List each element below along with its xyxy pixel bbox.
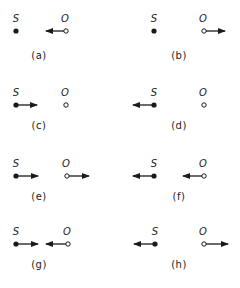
panel-caption-f: (f) bbox=[173, 192, 186, 202]
diagram-canvas bbox=[0, 0, 240, 288]
observer-circle-icon bbox=[202, 242, 206, 246]
source-label: S bbox=[151, 14, 157, 24]
panel-e bbox=[13, 173, 89, 178]
observer-label: O bbox=[61, 88, 69, 98]
panel-caption-a: (a) bbox=[31, 51, 46, 61]
panel-caption-b: (b) bbox=[171, 51, 187, 61]
source-dot-icon bbox=[13, 241, 18, 246]
source-dot-icon bbox=[151, 28, 156, 33]
observer-label: O bbox=[199, 227, 207, 237]
observer-label: O bbox=[61, 14, 69, 24]
panel-a bbox=[13, 28, 68, 33]
observer-label: O bbox=[62, 159, 70, 169]
observer-circle-icon bbox=[202, 174, 206, 178]
observer-circle-icon bbox=[65, 174, 69, 178]
panel-c bbox=[13, 102, 68, 107]
panel-b bbox=[151, 28, 225, 33]
panel-d bbox=[133, 102, 206, 107]
panels-layer bbox=[13, 28, 228, 246]
panel-caption-e: (e) bbox=[31, 192, 46, 202]
observer-circle-icon bbox=[202, 103, 206, 107]
source-label: S bbox=[151, 88, 157, 98]
source-label: S bbox=[152, 227, 158, 237]
source-label: S bbox=[13, 14, 19, 24]
panel-caption-h: (h) bbox=[171, 260, 187, 270]
source-dot-icon bbox=[13, 28, 18, 33]
observer-circle-icon bbox=[64, 29, 68, 33]
panel-caption-g: (g) bbox=[31, 260, 47, 270]
source-dot-icon bbox=[151, 173, 156, 178]
observer-circle-icon bbox=[66, 242, 70, 246]
source-label: S bbox=[13, 227, 19, 237]
observer-circle-icon bbox=[202, 29, 206, 33]
source-dot-icon bbox=[13, 173, 18, 178]
panel-h bbox=[134, 241, 228, 246]
source-label: S bbox=[13, 88, 19, 98]
source-dot-icon bbox=[152, 241, 157, 246]
observer-label: O bbox=[63, 227, 71, 237]
source-dot-icon bbox=[13, 102, 18, 107]
observer-label: O bbox=[199, 159, 207, 169]
panel-g bbox=[13, 241, 70, 246]
source-dot-icon bbox=[151, 102, 156, 107]
panel-f bbox=[133, 173, 206, 178]
observer-label: O bbox=[199, 14, 207, 24]
source-label: S bbox=[151, 159, 157, 169]
source-label: S bbox=[13, 159, 19, 169]
observer-circle-icon bbox=[64, 103, 68, 107]
observer-label: O bbox=[199, 88, 207, 98]
panel-caption-d: (d) bbox=[171, 121, 187, 131]
panel-caption-c: (c) bbox=[32, 121, 47, 131]
